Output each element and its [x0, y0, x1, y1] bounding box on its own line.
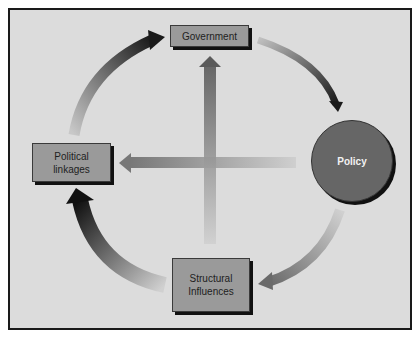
arrow-structural-to-political	[66, 188, 165, 285]
node-political-linkages: Political linkages	[32, 143, 111, 182]
node-government-label: Government	[182, 30, 237, 43]
node-political-line2: linkages	[53, 163, 90, 176]
node-government: Government	[170, 25, 249, 47]
arrow-government-to-policy	[258, 40, 343, 112]
node-political-line1: Political	[53, 150, 90, 163]
arrow-policy-to-structural	[258, 210, 340, 290]
node-structural-line1: Structural	[188, 272, 234, 285]
arrow-political-to-government	[74, 30, 165, 135]
node-structural-line2: Influences	[188, 285, 234, 298]
node-structural-influences: Structural Influences	[172, 258, 250, 312]
node-policy: Policy	[311, 120, 393, 202]
arrow-structural-to-government	[199, 56, 221, 244]
node-policy-label: Policy	[337, 156, 366, 167]
